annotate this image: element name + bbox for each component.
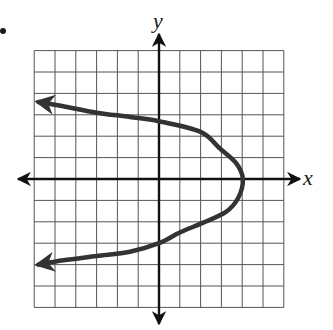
parabola-curve: [38, 102, 242, 265]
x-axis-label: x: [303, 167, 313, 189]
y-axis-label: y: [153, 10, 163, 32]
axes: [18, 34, 300, 324]
coordinate-plane: [0, 0, 333, 330]
